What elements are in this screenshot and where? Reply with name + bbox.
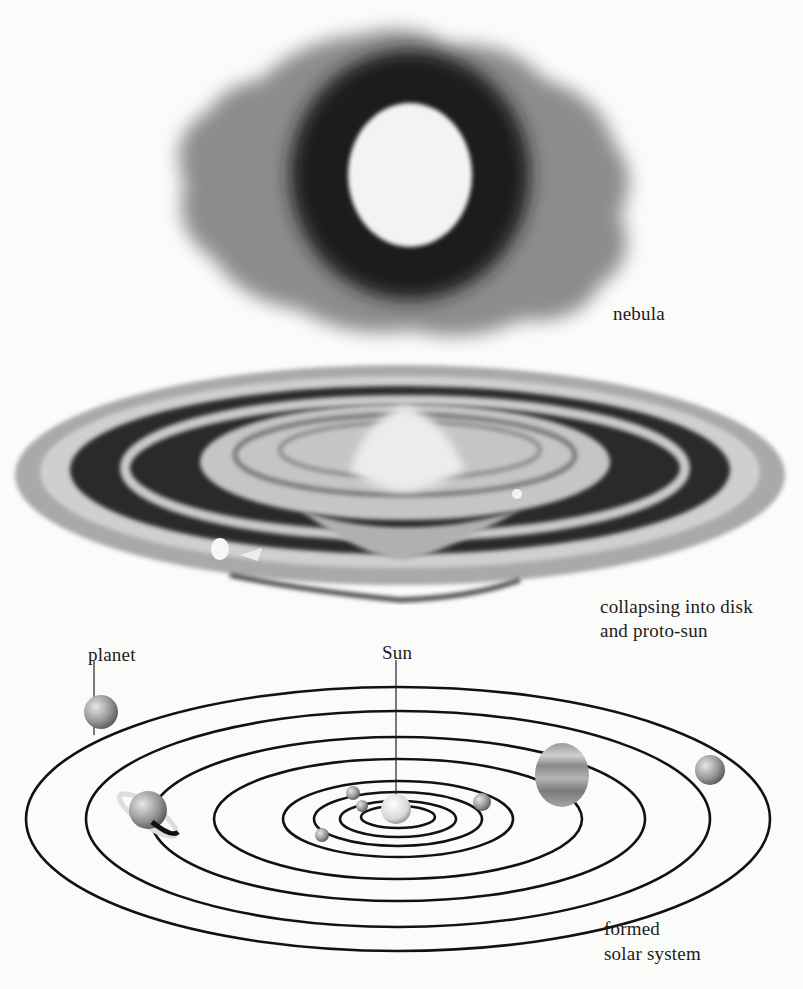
planet-icon (346, 786, 360, 800)
planet-icon (84, 695, 118, 729)
planet-icon (315, 828, 329, 842)
gas-giant-planet-icon (535, 743, 589, 807)
planet-icon (695, 755, 725, 785)
solar-system-formation-diagram: nebula collapsing into disk and proto-su… (0, 0, 803, 989)
planet-callout-label: planet (88, 643, 136, 666)
sun-callout-label: Sun (382, 641, 412, 664)
planet-icon (356, 800, 368, 812)
planet-icon (473, 793, 491, 811)
nebula-label: nebula (613, 302, 665, 325)
solar-system-label-line1: formed (604, 917, 660, 940)
solar-system-illustration (26, 660, 770, 951)
sun-icon (381, 794, 411, 824)
disk-label-line2: and proto-sun (600, 619, 708, 642)
disk-label-line1: collapsing into disk (600, 595, 753, 618)
ringed-planet-icon (114, 787, 181, 842)
protoplanetary-disk-illustration (15, 365, 785, 600)
solar-system-label-line2: solar system (604, 942, 701, 965)
nebula-illustration (179, 29, 629, 335)
diagram-graphics (0, 0, 803, 989)
